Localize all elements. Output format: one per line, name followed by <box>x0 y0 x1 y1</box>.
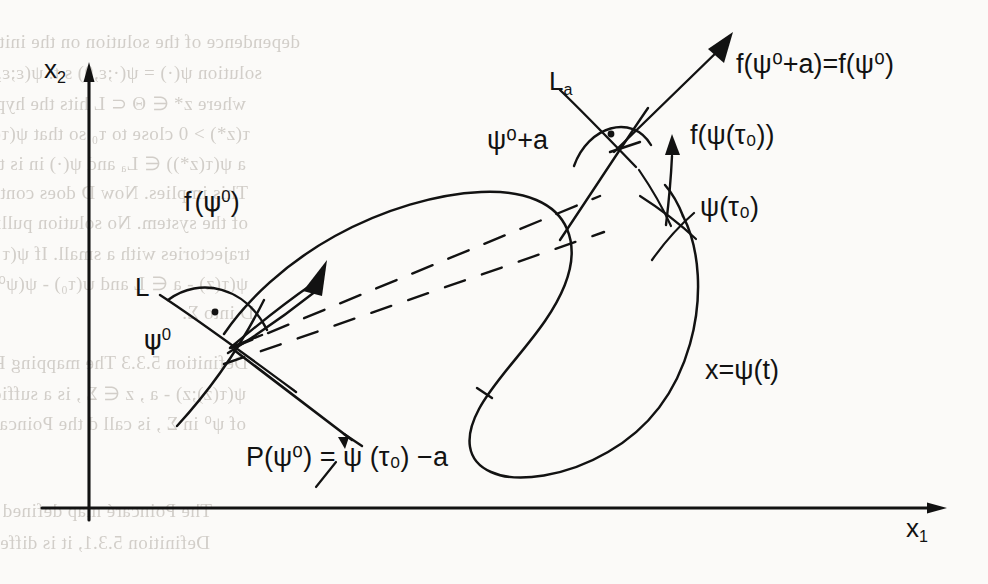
x2-axis-label: x2 <box>44 54 66 87</box>
dashed-guide-upper <box>232 196 600 348</box>
x1-axis-label: x1 <box>906 513 928 546</box>
psi0-plus-a-label: ψ⁰+a <box>487 124 548 156</box>
poincare-map-label: P(ψ⁰) = ψ (τ₀) −a <box>246 441 448 473</box>
x1-axis <box>42 503 947 514</box>
psi-tau0-label: ψ(τ₀) <box>700 192 759 223</box>
poincare-image-line <box>234 350 352 440</box>
transversal-L-line <box>160 295 296 392</box>
transversal-L-label: L <box>135 272 149 303</box>
trajectory-label: x=ψ(t) <box>705 355 779 386</box>
f-psi-tau0-label: f(ψ(τ₀)) <box>690 120 775 151</box>
f-psi0-plus-a-label: f(ψ⁰+a)=f(ψ⁰) <box>736 48 894 80</box>
f-psi-tau0-arrowhead <box>665 134 680 155</box>
psi0-label: ψ0 <box>144 324 171 356</box>
f-psi0-label: f(ψ0) <box>184 186 240 218</box>
transversal-La-line <box>560 90 636 167</box>
transversal-La-label: La <box>549 66 572 99</box>
La-cross-branch <box>560 108 648 240</box>
La-right-angle-dot <box>608 131 615 138</box>
figure-page: dependence of the solution on the initia… <box>0 0 988 584</box>
f-psi0-arrowhead <box>303 260 327 296</box>
dashed-guide-lower <box>224 232 604 364</box>
psi0-right-angle-dot <box>212 309 219 316</box>
periodic-orbit-curve <box>224 192 698 478</box>
x2-axis <box>84 62 95 520</box>
